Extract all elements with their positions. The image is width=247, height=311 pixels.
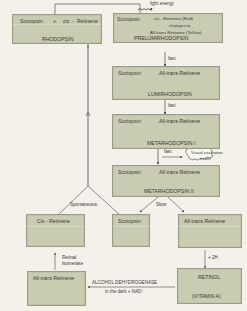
lumirhodopsin-box: Scotopsin All-trans Retinene LUMIRHODOPS… <box>112 66 220 100</box>
metarhodopsin-2-title: METARHODOPSIN II <box>144 189 194 194</box>
all-trans-retinene-box: All-trans Retinene <box>178 214 242 248</box>
fast-label-2: fast <box>168 104 175 109</box>
metarhodopsin-1-box: Scotopsin All-trans Retinene METARHODOPS… <box>112 114 220 149</box>
retinol-box: RETINOL (VITAMIN A) <box>177 268 242 304</box>
cis-retinene-label: Cis - Retinene <box>37 219 70 224</box>
prelumi-line2: changes to <box>169 24 190 28</box>
retinol-title: RETINOL <box>198 275 220 280</box>
lumi-retinene: All-trans Retinene <box>159 71 200 76</box>
cis-retinene-box: Cis - Retinene <box>26 214 85 247</box>
in-the-dark-label: in the dark + NAD⁺ <box>105 290 144 295</box>
prelumirhodopsin-title: PRELUMIRHODOPSIN <box>134 36 188 41</box>
retinene-label: Retinene <box>77 19 98 24</box>
scotopsin-label: Scotopsin <box>118 219 141 224</box>
retinal-isomerase-line1: Retinal <box>62 256 76 261</box>
vitamin-a-label: (VITAMIN A) <box>192 294 221 299</box>
minus-2h-label: + 2H <box>208 256 218 261</box>
rhodopsin-title: RHODOPSIN <box>42 37 73 42</box>
alcohol-dehydrogenase-label: ALCOHOL DEHYDROGENASE <box>92 281 157 286</box>
fast-label-3: fast <box>164 150 171 155</box>
prelumirhodopsin-box: Scotopsin cis - Retinene (Red) changes t… <box>113 13 223 43</box>
slow-label: Slow <box>156 203 166 208</box>
visual-excitation-line2: event <box>200 157 211 161</box>
dash: - <box>72 19 74 24</box>
all-trans-retinene-bottom-box: All-trans Retinene <box>27 271 86 306</box>
visual-excitation-line1: Visual excitation <box>191 151 223 155</box>
metarhodopsin-2-box: Scotopsin All-trans Retinene METARHODOPS… <box>112 165 220 197</box>
all-trans-retinene-label: All-trans Retinene <box>184 219 225 224</box>
rhodopsin-scotopsin: Scotopsin <box>20 19 43 24</box>
light-energy-label: light energy <box>150 2 174 7</box>
prelumi-line1: cis - Retinene (Red) <box>154 17 193 21</box>
retinal-isomerase-line2: isomerase <box>62 262 83 267</box>
lumirhodopsin-title: LUMIRHODOPSIN <box>148 92 192 97</box>
plus-sign: + <box>53 19 56 24</box>
meta2-scotopsin: Scotopsin <box>118 170 141 175</box>
spontaneous-label: Spontaneous <box>70 203 97 208</box>
metarhodopsin-1-title: METARHODOPSIN I <box>147 141 195 146</box>
fast-label-1: fast <box>168 57 175 62</box>
scotopsin-box: Scotopsin <box>112 214 150 247</box>
prelumi-scotopsin: Scotopsin <box>117 17 140 22</box>
cis-label: cis <box>63 19 69 24</box>
lumi-scotopsin: Scotopsin <box>118 71 141 76</box>
rhodopsin-box: Scotopsin + cis - Retinene RHODOPSIN <box>12 14 102 44</box>
meta2-retinene: All-trans Retinene <box>159 170 200 175</box>
meta1-retinene: All-trans Retinene <box>159 119 200 124</box>
all-trans-bottom-label: All-trans Retinene <box>33 276 74 281</box>
meta1-scotopsin: Scotopsin <box>118 119 141 124</box>
